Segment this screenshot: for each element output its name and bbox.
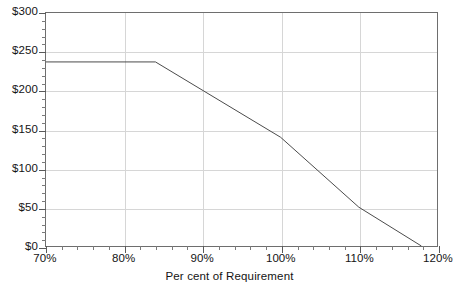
chart-container: $0$50$100$150$200$250$300 70%80%90%100%1…: [0, 0, 459, 290]
y-tick-label: $50: [19, 202, 39, 213]
x-tick-minor: [345, 246, 346, 250]
x-tick-major: [282, 246, 283, 253]
x-tick-minor: [250, 246, 251, 250]
y-tick-label: $200: [12, 84, 38, 95]
x-tick-minor: [77, 246, 78, 250]
x-axis-title: Per cent of Requirement: [0, 270, 459, 282]
x-tick-label: 70%: [33, 252, 56, 264]
y-tick-major: [39, 91, 46, 92]
y-tick-major: [39, 170, 46, 171]
x-tick-major: [360, 246, 361, 253]
y-tick-label: $150: [12, 124, 38, 135]
x-tick-minor: [408, 246, 409, 250]
x-tick-minor: [187, 246, 188, 250]
x-tick-minor: [266, 246, 267, 250]
x-tick-major: [203, 246, 204, 253]
x-tick-label: 90%: [191, 252, 214, 264]
y-tick-major: [39, 248, 46, 249]
x-tick-minor: [156, 246, 157, 250]
y-tick-label: $0: [25, 241, 38, 252]
y-tick-label: $250: [12, 45, 38, 56]
plot-area: [45, 12, 438, 247]
x-tick-minor: [109, 246, 110, 250]
y-tick-major: [39, 209, 46, 210]
x-tick-minor: [423, 246, 424, 250]
x-tick-minor: [329, 246, 330, 250]
x-tick-minor: [219, 246, 220, 250]
x-tick-minor: [172, 246, 173, 250]
y-tick-major: [39, 13, 46, 14]
x-tick-label: 120%: [423, 252, 453, 264]
x-tick-label: 80%: [112, 252, 135, 264]
x-tick-minor: [140, 246, 141, 250]
x-tick-minor: [93, 246, 94, 250]
x-tick-major: [439, 246, 440, 253]
x-tick-label: 100%: [266, 252, 296, 264]
x-tick-major: [125, 246, 126, 253]
y-tick-label: $300: [12, 6, 38, 17]
x-tick-label: 110%: [345, 252, 374, 264]
y-tick-major: [39, 52, 46, 53]
y-tick-major: [39, 131, 46, 132]
x-tick-minor: [392, 246, 393, 250]
x-tick-minor: [313, 246, 314, 250]
data-series-line: [46, 13, 437, 246]
x-tick-minor: [62, 246, 63, 250]
y-tick-label: $100: [12, 163, 38, 174]
x-tick-minor: [376, 246, 377, 250]
x-tick-minor: [235, 246, 236, 250]
x-tick-major: [46, 246, 47, 253]
x-tick-minor: [298, 246, 299, 250]
